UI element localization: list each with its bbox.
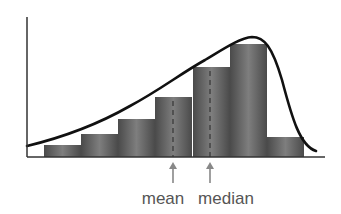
histogram-bars bbox=[44, 44, 304, 157]
histogram-bar bbox=[230, 44, 267, 157]
histogram-bar bbox=[81, 134, 118, 157]
histogram-bar bbox=[44, 145, 81, 157]
histogram-bar bbox=[193, 67, 230, 157]
histogram-chart: mean median bbox=[0, 0, 341, 214]
median-label: median bbox=[198, 189, 254, 208]
mean-label: mean bbox=[142, 189, 185, 208]
histogram-bar bbox=[267, 137, 304, 157]
histogram-bar bbox=[118, 119, 155, 157]
median-arrow-icon bbox=[206, 162, 214, 183]
mean-arrow-icon bbox=[169, 162, 177, 183]
